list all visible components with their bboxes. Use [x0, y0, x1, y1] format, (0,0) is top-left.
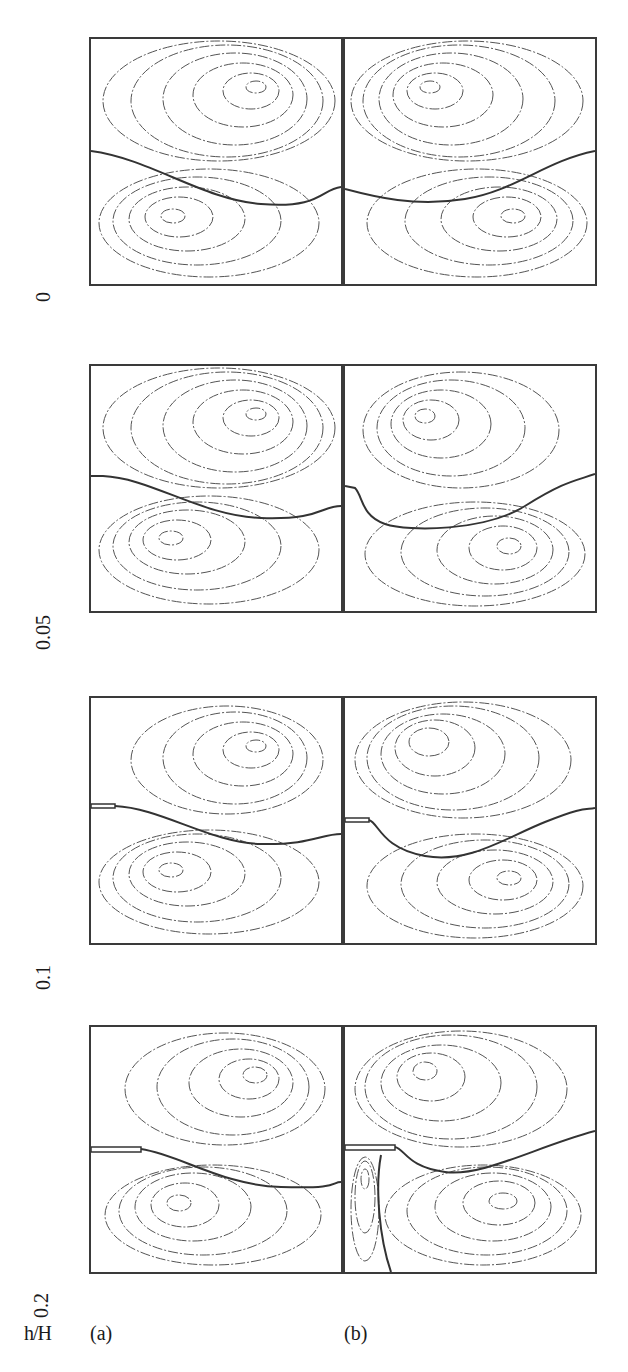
row-label-0.2: 0.2	[30, 1293, 53, 1318]
panel-row3-a	[89, 696, 343, 945]
streamlines-row2-b	[345, 366, 595, 611]
panel-row1-b	[343, 37, 597, 286]
row-label-0.05: 0.05	[32, 615, 55, 650]
row-label-0: 0	[32, 292, 55, 302]
column-label-a: (a)	[90, 1322, 112, 1345]
streamlines-row1-a	[91, 39, 341, 284]
panel-row1-a	[89, 37, 343, 286]
y-axis-label: h/H	[24, 1322, 51, 1345]
streamlines-row2-a	[91, 366, 341, 611]
panel-row4-a	[89, 1025, 343, 1274]
streamlines-row4-b	[345, 1027, 595, 1272]
panel-row3-b	[343, 696, 597, 945]
streamlines-row1-b	[345, 39, 595, 284]
streamlines-row3-b	[345, 698, 595, 943]
panel-row4-b	[343, 1025, 597, 1274]
streamlines-row3-a	[91, 698, 341, 943]
panel-row2-a	[89, 364, 343, 613]
column-label-b: (b)	[344, 1322, 367, 1345]
panel-row2-b	[343, 364, 597, 613]
streamlines-row4-a	[91, 1027, 341, 1272]
row-label-0.1: 0.1	[32, 965, 55, 990]
